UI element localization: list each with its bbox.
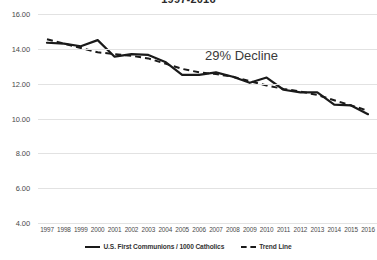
gridline <box>38 223 377 224</box>
annotation-29-percent-decline: 29% Decline <box>205 48 278 63</box>
x-tick-label: 1997 <box>40 226 54 233</box>
gridline <box>38 119 377 120</box>
x-tick-label: 2002 <box>125 226 139 233</box>
chart-container: 1997-2016 16.0014.0012.0010.008.006.004.… <box>0 0 377 260</box>
x-tick-label: 1998 <box>57 226 71 233</box>
x-tick-label: 2005 <box>175 226 189 233</box>
x-tick-label: 2007 <box>209 226 223 233</box>
y-tick-label: 14.00 <box>12 44 30 53</box>
x-tick-label: 2015 <box>344 226 358 233</box>
y-tick-label: 12.00 <box>12 79 30 88</box>
legend-dashed-line-icon <box>241 246 256 248</box>
y-tick-label: 6.00 <box>16 184 30 193</box>
x-tick-label: 2001 <box>108 226 122 233</box>
x-tick-label: 2006 <box>192 226 206 233</box>
x-tick-label: 2013 <box>311 226 325 233</box>
legend-entry[interactable]: Trend Line <box>241 243 291 250</box>
gridline <box>38 14 377 15</box>
x-tick-label: 2011 <box>277 226 290 233</box>
x-tick-label: 2016 <box>361 226 375 233</box>
x-tick-label: 2014 <box>327 226 341 233</box>
x-tick-label: 2000 <box>91 226 105 233</box>
legend-label: Trend Line <box>259 243 291 250</box>
y-tick-label: 10.00 <box>12 114 30 123</box>
x-axis: 1997199819992000200120022003200420052006… <box>38 226 377 238</box>
x-tick-label: 1999 <box>74 226 88 233</box>
legend-label: U.S. First Communions / 1000 Catholics <box>103 243 224 250</box>
chart-title: 1997-2016 <box>0 0 377 3</box>
gridline <box>38 153 377 154</box>
x-tick-label: 2008 <box>226 226 240 233</box>
chart-legend: U.S. First Communions / 1000 CatholicsTr… <box>0 243 377 250</box>
x-tick-label: 2009 <box>243 226 257 233</box>
legend-solid-line-icon <box>85 246 100 248</box>
y-tick-label: 8.00 <box>16 149 30 158</box>
y-axis: 16.0014.0012.0010.008.006.004.00 <box>0 14 34 223</box>
y-tick-label: 4.00 <box>16 219 30 228</box>
gridline <box>38 84 377 85</box>
x-tick-label: 2004 <box>158 226 172 233</box>
x-tick-label: 2012 <box>294 226 308 233</box>
x-tick-label: 2003 <box>142 226 156 233</box>
y-tick-label: 16.00 <box>12 10 30 19</box>
legend-entry[interactable]: U.S. First Communions / 1000 Catholics <box>85 243 224 250</box>
plot-area <box>38 14 377 223</box>
gridline <box>38 188 377 189</box>
x-tick-label: 2010 <box>260 226 274 233</box>
